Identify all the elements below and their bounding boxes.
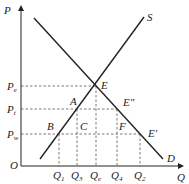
supply-curve <box>40 17 144 159</box>
quantity-label-qe: Qe <box>90 169 101 183</box>
quantity-label-q4: Q4 <box>111 169 123 183</box>
price-label-pe: Pe <box>6 80 17 94</box>
point-label-e-prime: E' <box>147 127 158 139</box>
demand-label: D <box>166 152 175 164</box>
supply-label: S <box>147 11 153 23</box>
point-label-f: F <box>118 120 126 132</box>
origin-label: O <box>10 159 18 171</box>
x-axis-label: Q <box>177 171 185 183</box>
price-label-pw: Pw <box>6 128 19 142</box>
demand-curve <box>34 18 163 159</box>
point-label-b: B <box>47 120 54 132</box>
point-label-a: A <box>69 95 77 107</box>
quantity-label-q1: Q1 <box>53 169 64 183</box>
point-label-e-double-prime: E" <box>122 96 135 108</box>
supply-demand-diagram: P Q O S D Pe Pt Pw Q1 Q3 Qe Q4 Q2 E A B … <box>0 0 189 184</box>
quantity-label-q3: Q3 <box>71 169 83 183</box>
price-label-pt: Pt <box>6 103 17 117</box>
quantity-label-q2: Q2 <box>134 169 146 183</box>
point-label-e: E <box>100 79 108 91</box>
point-label-c: C <box>80 120 88 132</box>
y-axis-label: P <box>3 4 11 16</box>
